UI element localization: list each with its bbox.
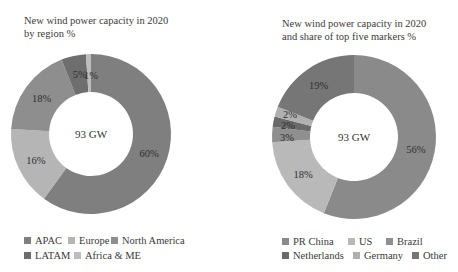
legend-label: Netherlands [293,250,344,261]
slice-value-label: 2% [281,120,295,131]
legend-swatch [348,238,355,245]
legend-label: North America [122,235,185,246]
legend-item-europe: Europe [68,235,109,246]
legend-label: Germany [364,250,403,261]
legend-item-other: Other [412,250,447,261]
slice-value-label: 18% [32,93,52,104]
slice-value-label: 19% [309,80,329,91]
legend-label: Other [423,250,447,261]
legend-swatch [24,237,31,244]
legend-label: LATAM [35,250,70,261]
legend-item-apac: APAC [24,235,62,246]
right-center-label: 93 GW [338,131,371,143]
legend-item-brazil: Brazil [386,236,423,247]
legend-item-pr-china: PR China [282,236,334,247]
legend-item-netherlands: Netherlands [282,250,344,261]
legend-swatch [353,252,360,259]
slice-value-label: 3% [280,132,294,143]
legend-item-latam: LATAM [24,250,70,261]
legend-item-north-america: North America [111,235,185,246]
slice-value-label: 16% [26,155,46,166]
legend-item-africa-me: Africa & ME [74,250,141,261]
legend-label: Brazil [397,236,423,247]
legend-swatch [386,238,393,245]
left-center-label: 93 GW [75,128,108,140]
slice-value-label: 18% [293,169,313,180]
donut-charts: 60%16%18%5%1% 56%18%3%2%2%19% 93 GW93 GW [0,0,458,272]
legend-swatch [74,252,81,259]
slice-value-label: 1% [84,70,98,81]
legend-swatch [282,238,289,245]
legend-swatch [68,237,75,244]
legend-swatch [412,252,419,259]
slice-value-label: 60% [139,148,159,159]
legend-label: US [359,236,372,247]
legend-label: Europe [79,235,109,246]
legend-swatch [282,252,289,259]
legend-swatch [111,237,118,244]
legend-item-us: US [348,236,372,247]
legend-swatch [24,252,31,259]
slice-value-label: 56% [406,144,426,155]
legend-label: Africa & ME [85,250,141,261]
legend-item-germany: Germany [353,250,403,261]
legend-label: APAC [35,235,62,246]
legend-label: PR China [293,236,334,247]
